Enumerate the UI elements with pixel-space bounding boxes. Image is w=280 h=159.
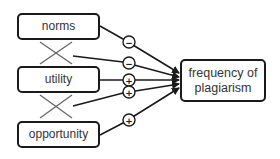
node-target-label: frequency of plagiarism: [182, 66, 264, 96]
node-norms-label: norms: [42, 19, 75, 34]
minus-icon: −: [125, 59, 133, 69]
node-opportunity: opportunity: [17, 121, 100, 148]
interaction-cross-utility-opportunity: [40, 95, 72, 118]
plus-icon: +: [125, 116, 133, 126]
plus-icon: +: [125, 76, 133, 86]
interaction-cross-norms-utility: [40, 42, 72, 64]
node-norms: norms: [17, 13, 100, 40]
node-utility: utility: [17, 66, 100, 93]
minus-icon: −: [125, 38, 133, 48]
node-frequency-of-plagiarism: frequency of plagiarism: [180, 59, 266, 102]
causal-diagram: − − + + + norms utility opportunity freq…: [0, 0, 280, 159]
node-opportunity-label: opportunity: [29, 127, 88, 142]
edge-opportunity: [100, 88, 179, 135]
node-utility-label: utility: [45, 72, 72, 87]
plus-icon: +: [125, 88, 133, 98]
